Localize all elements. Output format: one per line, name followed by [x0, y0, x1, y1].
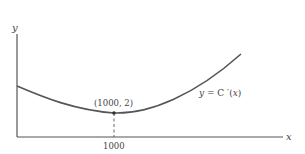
- point-label: (1000, 2): [94, 98, 133, 108]
- x-axis-label: x: [286, 131, 292, 142]
- y-axis-label: y: [11, 22, 18, 33]
- curve-label-eq: = C ′(: [204, 88, 233, 98]
- chart-canvas: y x 1000 (1000, 2) y = C ′(x): [0, 0, 305, 154]
- x-tick-1000: 1000: [103, 141, 125, 151]
- curve-label: y = C ′(x): [198, 88, 241, 98]
- curve-label-close: ): [238, 88, 242, 98]
- minimum-point: [112, 111, 116, 115]
